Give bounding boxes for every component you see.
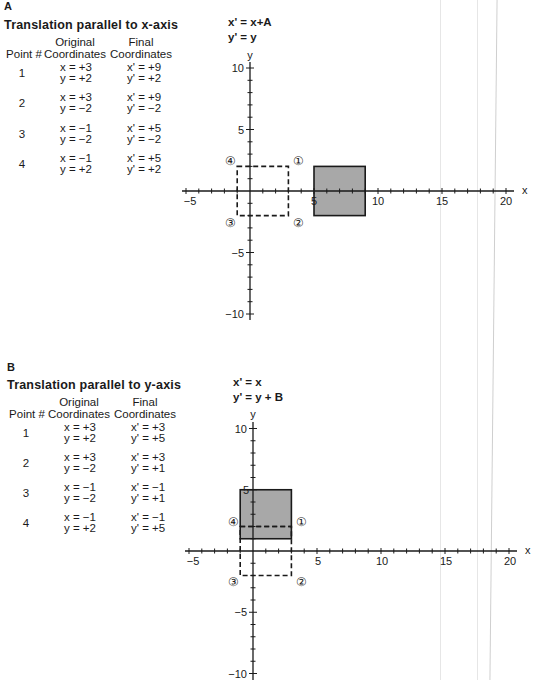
point-marker-2: ② [296, 575, 307, 589]
x-tick-label: 20 [504, 555, 516, 567]
point-marker-3: ③ [228, 575, 239, 589]
x-tick-label: 15 [440, 555, 452, 567]
translated-square [240, 490, 291, 539]
y-tick-label: −5 [234, 606, 247, 618]
x-tick-label: 10 [376, 555, 388, 567]
x-tick-label: −5 [187, 555, 200, 567]
point-marker-4: ④ [228, 515, 239, 529]
x-axis-label: x [525, 544, 531, 556]
y-tick-label: −10 [228, 668, 247, 680]
y-tick-label: 5 [243, 484, 249, 496]
graph-b: −5 5 10 15 20 x y 10 5 −5 −10 ① ② ③ ④ [0, 0, 542, 680]
point-marker-1: ① [296, 515, 307, 529]
y-tick-label: 10 [235, 423, 247, 435]
x-tick-label: 5 [315, 555, 321, 567]
y-axis-label: y [250, 408, 256, 420]
